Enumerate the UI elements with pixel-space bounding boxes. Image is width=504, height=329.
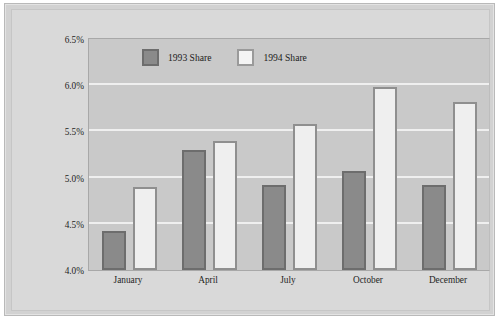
bar-group <box>169 141 249 270</box>
legend-item-1994: 1994 Share <box>237 49 306 66</box>
bar-july-1993 <box>262 185 286 270</box>
chart-card-inner: 6.5%6.0%5.5%5.0%4.5%4.0% JanuaryAprilJul… <box>11 9 490 311</box>
y-tick-label: 4.5% <box>65 220 84 230</box>
plot-area <box>88 38 490 271</box>
y-tick-label: 5.5% <box>65 127 84 137</box>
bar-january-1993 <box>102 231 126 270</box>
x-tick-label: January <box>114 275 143 285</box>
y-tick-label: 6.5% <box>65 35 84 45</box>
x-axis: JanuaryAprilJulyOctoberDecember <box>88 271 490 295</box>
chart-legend: 1993 Share 1994 Share <box>142 49 307 66</box>
y-tick-label: 5.0% <box>65 174 84 184</box>
x-tick-label: July <box>280 275 296 285</box>
legend-label-1993: 1993 Share <box>168 52 211 63</box>
y-tick-label: 6.0% <box>65 81 84 91</box>
bar-group <box>89 187 169 270</box>
x-tick-label: October <box>353 275 383 285</box>
chart-card-outer: 6.5%6.0%5.5%5.0%4.5%4.0% JanuaryAprilJul… <box>4 3 495 316</box>
bar-group <box>409 102 489 270</box>
bar-chart: 6.5%6.0%5.5%5.0%4.5%4.0% JanuaryAprilJul… <box>64 35 492 297</box>
bar-january-1994 <box>133 187 157 270</box>
y-axis: 6.5%6.0%5.5%5.0%4.5%4.0% <box>4 38 88 271</box>
legend-item-1993: 1993 Share <box>142 49 211 66</box>
legend-swatch-1993 <box>142 49 159 66</box>
bar-july-1994 <box>293 124 317 270</box>
x-tick-label: April <box>198 275 218 285</box>
bar-december-1993 <box>422 185 446 270</box>
bar-october-1994 <box>373 87 397 270</box>
bar-group <box>329 87 409 270</box>
y-tick-label: 4.0% <box>65 266 84 276</box>
bar-december-1994 <box>453 102 477 270</box>
bar-april-1993 <box>182 150 206 270</box>
image-canvas: 6.5%6.0%5.5%5.0%4.5%4.0% JanuaryAprilJul… <box>0 0 504 329</box>
gridline <box>89 83 489 85</box>
bar-april-1994 <box>213 141 237 270</box>
gridline <box>89 38 489 39</box>
bar-october-1993 <box>342 171 366 270</box>
x-tick-label: December <box>429 275 467 285</box>
legend-swatch-1994 <box>237 49 254 66</box>
legend-label-1994: 1994 Share <box>263 52 306 63</box>
bar-group <box>249 124 329 270</box>
